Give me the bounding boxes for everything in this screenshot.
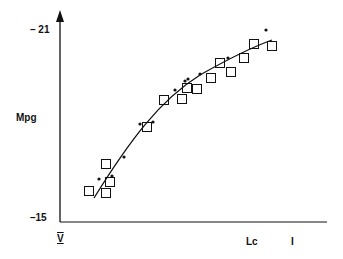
square-marker [85, 187, 94, 196]
square-marker [183, 84, 192, 93]
square-marker [193, 85, 202, 94]
dot-marker [173, 88, 176, 91]
x-tick-right: I [291, 236, 294, 247]
square-marker [227, 68, 236, 77]
dot-marker [97, 177, 100, 180]
square-marker [207, 74, 216, 83]
y-tick-bottom: –15 [30, 212, 47, 223]
dot-marker [264, 28, 267, 31]
fit-curve [94, 40, 272, 198]
x-axis-label: Lc [246, 236, 258, 247]
square-marker [102, 160, 111, 169]
square-marker [240, 54, 249, 63]
square-marker [102, 189, 111, 198]
dot-marker [151, 120, 154, 123]
dot-marker [138, 122, 141, 125]
chart-plot [0, 0, 343, 259]
dot-marker [122, 155, 125, 158]
dot-marker [110, 174, 113, 177]
square-marker [178, 95, 187, 104]
square-marker [268, 42, 277, 51]
dot-marker [183, 79, 186, 82]
dot-marker [186, 77, 189, 80]
y-tick-top: – 21 [30, 24, 49, 35]
x-tick-left: V [57, 233, 64, 244]
y-axis-label: Mpg [16, 112, 37, 123]
y-axis-arrow-icon [56, 10, 64, 22]
